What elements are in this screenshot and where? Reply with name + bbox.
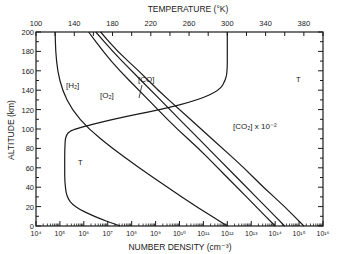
x-tick-label: 10¹⁵ (293, 230, 306, 237)
temperature-axis-ticks: 100140180220260300340380 (30, 19, 323, 36)
y-tick-label: 120 (21, 106, 34, 115)
altitude-profile-chart: 10⁴10⁵10⁶10⁷10⁸10⁹10¹⁰10¹¹10¹²10¹³10¹⁴10… (0, 0, 341, 254)
temperature-tick-label: 140 (68, 19, 81, 28)
x-tick-label: 10⁸ (126, 230, 137, 237)
temperature-tick-label: 300 (221, 19, 234, 28)
temperature-tick-label: 260 (183, 19, 196, 28)
temperature-tick-label: 380 (298, 19, 311, 28)
x-tick-label: 10⁶ (78, 230, 89, 237)
x-tick-label: 10⁵ (55, 230, 66, 237)
label-h2: [H₂] (66, 81, 79, 90)
x-tick-label: 10⁹ (150, 230, 161, 237)
y-tick-label: 40 (26, 183, 34, 192)
temperature-tick-label: 180 (106, 19, 119, 28)
label-temperature-lower: T (78, 158, 83, 167)
y-tick-label: 140 (21, 86, 34, 95)
y-tick-label: 60 (26, 164, 34, 173)
y-tick-label: 160 (21, 67, 34, 76)
y-tick-label: 200 (21, 28, 34, 37)
label-co2: [CO₂] x 10⁻² (233, 122, 277, 131)
x-tick-label: 10¹³ (245, 230, 258, 237)
temperature-tick-label: 340 (259, 19, 272, 28)
plot-frame (36, 32, 323, 226)
x-tick-label: 10⁷ (103, 230, 114, 237)
x-tick-label: 10⁴ (31, 230, 42, 237)
temperature-tick-label: 100 (30, 19, 43, 28)
temperature-tick-label: 220 (145, 19, 158, 28)
label-co: [CO] (138, 75, 154, 84)
x-tick-label: 10¹² (221, 230, 234, 237)
y-tick-label: 0 (30, 222, 34, 231)
x-tick-label: 10¹⁰ (173, 230, 186, 237)
label-o2: [O₂] (100, 91, 114, 100)
label-temperature-upper: T (296, 75, 301, 84)
x-axis-label: NUMBER DENSITY (cm⁻³) (128, 242, 231, 252)
x-tick-label: 10¹⁶ (317, 230, 330, 237)
temperature-axis-label: TEMPERATURE (°K) (148, 4, 229, 14)
x-axis-ticks: 10⁴10⁵10⁶10⁷10⁸10⁹10¹⁰10¹¹10¹²10¹³10¹⁴10… (31, 221, 330, 237)
y-tick-label: 20 (26, 203, 34, 212)
y-tick-label: 180 (21, 47, 34, 56)
y-tick-label: 100 (21, 125, 34, 134)
x-tick-label: 10¹⁴ (269, 230, 282, 237)
y-axis-label: ALTITUDE (km) (6, 100, 16, 160)
x-tick-label: 10¹¹ (197, 230, 210, 237)
y-tick-label: 80 (26, 144, 34, 153)
